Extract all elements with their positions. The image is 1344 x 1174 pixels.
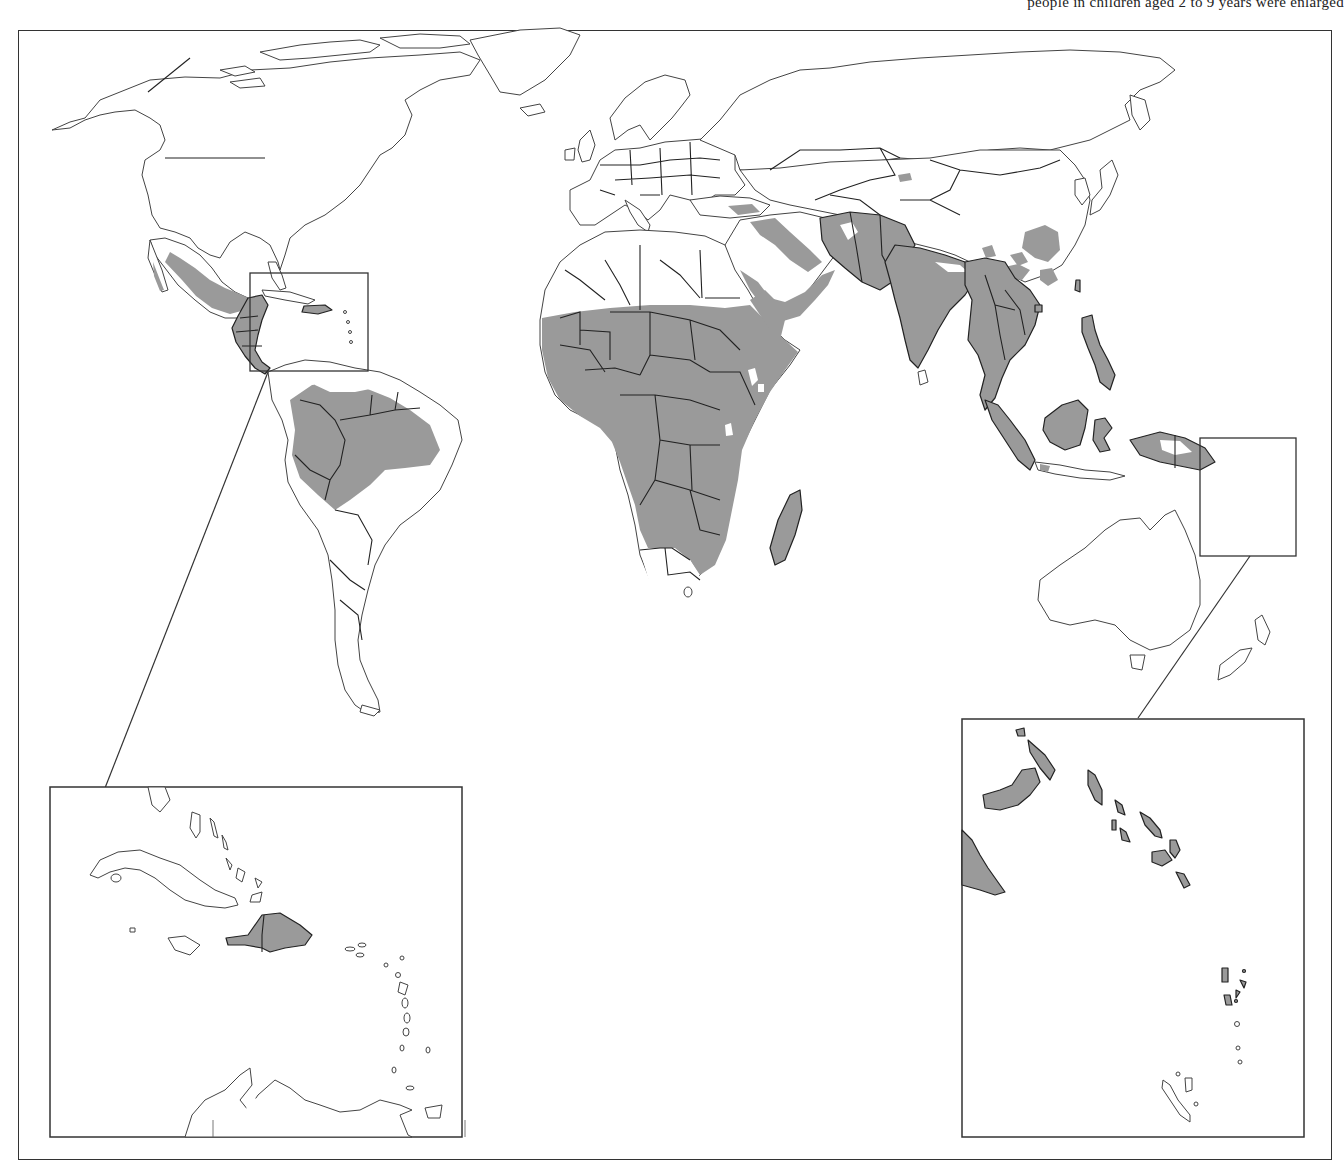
north-america — [52, 28, 580, 374]
pacific-locator-box — [1200, 438, 1296, 556]
south-america — [268, 360, 462, 716]
caribbean-locator-box — [250, 273, 368, 371]
caribbean-leader-line — [105, 372, 268, 788]
australia-newzealand — [1038, 510, 1270, 680]
asia — [700, 50, 1215, 480]
pacific-inset — [962, 719, 1304, 1137]
world-map — [0, 0, 1344, 1174]
caribbean-inset — [50, 787, 465, 1137]
